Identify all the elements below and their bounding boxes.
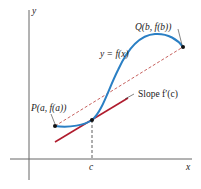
slope-label: Slope f′(c) — [138, 89, 178, 100]
slope-leader — [125, 94, 134, 99]
p-leader — [51, 114, 55, 124]
c-label: c — [89, 162, 94, 172]
point-tangent — [90, 118, 94, 122]
x-axis-label: x — [185, 162, 191, 172]
curve-f — [55, 34, 183, 127]
curve-label: y = f(x) — [99, 49, 129, 60]
point-q-label: Q(b, f(b)) — [135, 22, 171, 33]
point-q — [181, 45, 185, 49]
y-axis-label: y — [31, 6, 37, 16]
mvt-diagram: y x c y = f(x) Q(b, f(b)) P(a, f(a)) Slo… — [0, 0, 201, 189]
point-p-label: P(a, f(a)) — [30, 103, 66, 114]
point-p — [53, 124, 57, 128]
